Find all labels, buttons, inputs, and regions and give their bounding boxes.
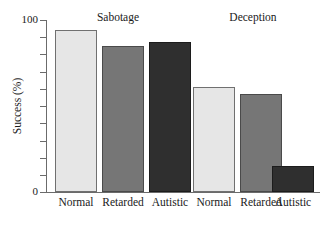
bar-sabotage-retarded bbox=[102, 46, 144, 192]
y-axis-tick bbox=[40, 192, 46, 193]
x-axis-label-deception-autistic: Autistic bbox=[263, 196, 323, 208]
y-axis-tick bbox=[40, 158, 46, 159]
y-axis-tick bbox=[40, 89, 46, 90]
y-axis-tick bbox=[40, 20, 46, 21]
y-axis-tick-label-100: 100 bbox=[18, 14, 38, 25]
y-axis-tick-label-0: 0 bbox=[26, 186, 38, 197]
x-axis-line bbox=[46, 192, 320, 193]
y-axis-tick bbox=[40, 123, 46, 124]
bar-deception-autistic bbox=[272, 166, 314, 192]
y-axis-tick bbox=[40, 141, 46, 142]
y-axis-tick bbox=[40, 106, 46, 107]
y-axis-tick bbox=[40, 37, 46, 38]
y-axis-tick bbox=[40, 175, 46, 176]
bar-sabotage-normal bbox=[55, 30, 97, 192]
y-axis-tick bbox=[40, 72, 46, 73]
y-axis-line bbox=[46, 20, 47, 193]
group-title-sabotage: Sabotage bbox=[68, 11, 168, 23]
bar-sabotage-autistic bbox=[149, 42, 191, 192]
y-axis-title: Success (%) bbox=[11, 58, 23, 154]
bar-deception-normal bbox=[193, 87, 235, 192]
bar-chart: 100 0 Success (%) Sabotage Deception Nor… bbox=[0, 0, 329, 225]
y-axis-tick bbox=[40, 54, 46, 55]
group-title-deception: Deception bbox=[203, 11, 303, 23]
